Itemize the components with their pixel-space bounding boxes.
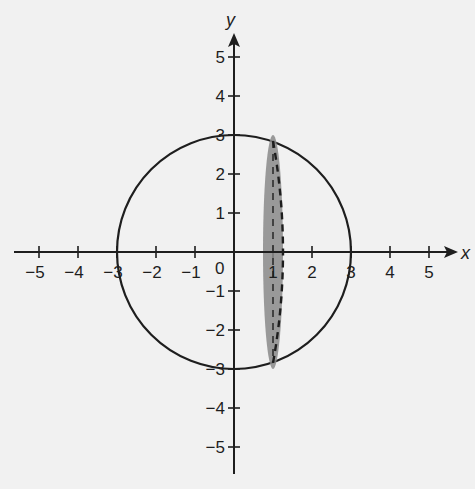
y-tick-label: 5	[216, 48, 225, 67]
x-tick-label: −2	[142, 263, 161, 282]
x-axis-label: x	[460, 243, 471, 263]
y-tick-label: −2	[206, 321, 225, 340]
y-tick-label: −3	[206, 360, 225, 379]
x-tick-label: −1	[181, 263, 200, 282]
y-tick-label: 2	[216, 165, 225, 184]
y-tick-label: 1	[216, 204, 225, 223]
x-tick-label: −3	[103, 263, 122, 282]
x-tick-label: 3	[346, 263, 355, 282]
y-tick-label: −1	[206, 282, 225, 301]
origin-label: 0	[215, 259, 224, 278]
x-tick-label: 2	[307, 263, 316, 282]
x-tick-label: −4	[64, 263, 83, 282]
x-tick-label: 5	[424, 263, 433, 282]
y-tick-label: −4	[206, 399, 225, 418]
x-tick-label: 1	[268, 263, 277, 282]
y-tick-label: 3	[216, 126, 225, 145]
diagram-canvas: x y 0 −5−4−3−2−11234554321−1−2−3−4−5	[0, 0, 475, 489]
y-axis-label: y	[224, 10, 236, 30]
x-tick-label: −5	[25, 263, 44, 282]
coordinate-plane-figure: x y 0 −5−4−3−2−11234554321−1−2−3−4−5	[0, 0, 475, 489]
x-tick-label: 4	[385, 263, 394, 282]
y-tick-label: −5	[206, 438, 225, 457]
y-tick-label: 4	[216, 87, 225, 106]
